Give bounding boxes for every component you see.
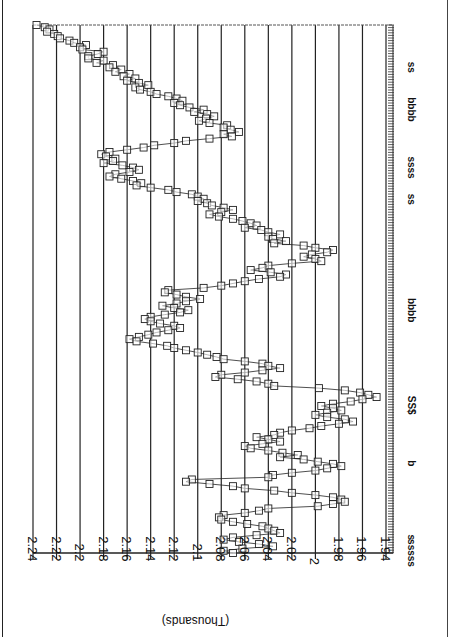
data-marker	[44, 28, 51, 35]
data-series	[33, 22, 380, 557]
data-marker	[159, 302, 166, 309]
data-marker	[119, 162, 126, 169]
data-marker	[208, 202, 215, 209]
data-marker	[312, 244, 319, 251]
data-marker	[177, 309, 184, 316]
data-marker	[241, 369, 248, 376]
data-marker	[241, 358, 248, 365]
data-marker	[200, 284, 207, 291]
value-tick-label: 2.2	[72, 543, 87, 561]
value-tick-label: 1.94	[378, 536, 393, 561]
data-marker	[318, 423, 325, 430]
data-marker	[288, 260, 295, 267]
data-marker	[241, 278, 248, 285]
data-marker	[215, 213, 222, 220]
data-marker	[314, 503, 321, 510]
data-marker	[102, 153, 109, 160]
data-marker	[230, 518, 237, 525]
data-marker	[258, 226, 265, 233]
data-marker	[204, 351, 211, 358]
data-marker	[312, 467, 319, 474]
data-marker	[318, 402, 325, 409]
data-marker	[211, 113, 218, 120]
data-marker	[157, 320, 164, 327]
data-marker	[314, 458, 321, 465]
data-marker	[182, 298, 189, 305]
value-tick-label: 2	[307, 558, 322, 565]
data-marker	[373, 394, 380, 401]
data-marker	[265, 447, 272, 454]
data-marker	[300, 456, 307, 463]
data-marker	[195, 117, 202, 124]
data-marker	[277, 438, 284, 445]
data-marker	[288, 427, 295, 434]
data-marker	[118, 175, 125, 182]
data-marker	[241, 224, 248, 231]
value-tick-label: 2.06	[237, 536, 252, 561]
data-marker	[124, 146, 131, 153]
value-tick-label: 2.14	[143, 536, 158, 561]
data-marker	[151, 142, 158, 149]
data-marker	[265, 474, 272, 481]
time-tick-label: ssss	[406, 156, 417, 179]
data-marker	[171, 345, 178, 352]
data-marker	[227, 126, 234, 133]
data-marker	[312, 411, 319, 418]
data-marker	[267, 269, 274, 276]
data-marker	[277, 365, 284, 372]
data-marker	[324, 249, 331, 256]
data-marker	[173, 291, 180, 298]
value-tick-label: 2.04	[260, 536, 275, 561]
unit-label: (Thousands)	[162, 614, 229, 628]
data-marker	[247, 267, 254, 274]
data-marker	[277, 529, 284, 536]
data-marker	[228, 133, 235, 140]
rotated-line-chart: 2.242.222.22.182.162.142.122.12.082.062.…	[0, 0, 459, 637]
data-marker	[182, 347, 189, 354]
data-marker	[126, 169, 133, 176]
data-marker	[165, 93, 172, 100]
value-tick-label: 2.18	[96, 536, 111, 561]
data-marker	[147, 184, 154, 191]
data-marker	[124, 77, 131, 84]
data-marker	[171, 140, 178, 147]
data-marker	[338, 463, 345, 470]
data-marker	[338, 407, 345, 414]
data-marker	[247, 445, 254, 452]
data-marker	[341, 387, 348, 394]
data-marker	[213, 353, 220, 360]
data-marker	[234, 376, 241, 383]
data-marker	[239, 218, 246, 225]
value-tick-label: 2.08	[213, 536, 228, 561]
data-marker	[335, 420, 342, 427]
data-marker	[330, 494, 337, 501]
value-tick-label: 1.98	[331, 536, 346, 561]
data-marker	[94, 50, 101, 57]
data-marker	[265, 505, 272, 512]
data-marker	[164, 342, 171, 349]
data-marker	[259, 367, 266, 374]
data-marker	[253, 378, 260, 385]
data-marker	[153, 329, 160, 336]
data-marker	[220, 124, 227, 131]
value-tick-label: 1.96	[354, 536, 369, 561]
data-marker	[133, 182, 140, 189]
data-marker	[57, 35, 64, 42]
data-marker	[255, 507, 262, 514]
data-marker	[300, 253, 307, 260]
data-marker	[135, 166, 142, 173]
data-marker	[126, 336, 133, 343]
data-marker	[194, 349, 201, 356]
time-tick-label: SS$	[406, 396, 417, 415]
value-tick-label: 2.16	[119, 536, 134, 561]
data-marker	[271, 487, 278, 494]
data-marker	[112, 68, 119, 75]
data-marker	[312, 492, 319, 499]
data-marker	[177, 324, 184, 331]
data-marker	[106, 173, 113, 180]
data-marker	[194, 198, 201, 205]
data-marker	[173, 189, 180, 196]
data-marker	[177, 102, 184, 109]
value-tick-label: 2.1	[190, 543, 205, 561]
data-marker	[306, 425, 313, 432]
